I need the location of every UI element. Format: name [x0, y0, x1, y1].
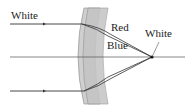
arrow-marker-top [43, 23, 46, 26]
label-blue: Blue [107, 40, 128, 51]
arrow-marker-bottom [43, 90, 46, 93]
focus-leader-line [152, 42, 159, 57]
label-red: Red [111, 22, 129, 33]
label-incoming-white: White [11, 10, 38, 21]
label-focus-white: White [145, 28, 172, 39]
chromatic-aberration-diagram: White Red Blue White [0, 0, 192, 109]
